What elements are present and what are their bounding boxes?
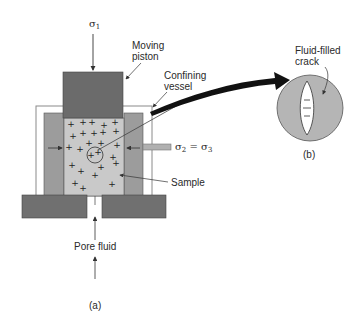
svg-text:+: +: [65, 142, 73, 152]
svg-text:+: +: [99, 127, 107, 137]
fluid-filled-crack-label: Fluid-filled crack: [295, 45, 341, 67]
moving-piston-label: Moving piston: [132, 40, 164, 62]
svg-text:+: +: [91, 170, 99, 180]
svg-text:+: +: [67, 119, 75, 129]
sigma3-subscript: 3: [208, 146, 212, 154]
confining-vessel-label: Confining vessel: [164, 70, 206, 92]
svg-text:+: +: [112, 126, 120, 136]
leader-confining-vessel: [153, 92, 167, 107]
svg-text:+: +: [108, 179, 116, 189]
equals-sign: =: [186, 141, 201, 152]
svg-text:+: +: [90, 128, 98, 138]
svg-text:+: +: [112, 158, 120, 168]
vessel-wall-right: [124, 113, 143, 196]
pore-fluid-label: Pore fluid: [74, 241, 116, 252]
confining-pipe: [143, 144, 171, 150]
sample-label: Sample: [171, 177, 205, 188]
moving-piston-label-line1: Moving: [132, 40, 164, 51]
panel-a-caption: (a): [89, 300, 101, 311]
base-block-right: [102, 195, 166, 218]
svg-text:+: +: [79, 183, 87, 193]
svg-text:+: +: [71, 178, 79, 188]
crack-label-line1: Fluid-filled: [295, 45, 341, 56]
moving-piston: [63, 72, 123, 118]
sigma3-symbol: σ: [201, 141, 208, 152]
crack-label-line2: crack: [295, 56, 341, 67]
vessel-wall-left: [44, 113, 64, 196]
sigma2-sigma3-label: σ2 = σ3: [175, 141, 212, 156]
base-block-left: [22, 195, 87, 218]
sigma-symbol: σ: [89, 18, 96, 29]
sigma2-symbol: σ: [175, 141, 182, 152]
svg-text:+: +: [76, 144, 84, 154]
svg-text:+: +: [79, 117, 87, 127]
svg-text:+: +: [79, 128, 87, 138]
sigma-subscript: 1: [96, 23, 100, 31]
svg-text:+: +: [77, 166, 85, 176]
svg-text:+: +: [68, 160, 76, 170]
sigma1-label: σ1: [89, 18, 100, 33]
confining-vessel-label-line2: vessel: [164, 81, 206, 92]
svg-text:+: +: [85, 138, 93, 148]
svg-text:+: +: [69, 131, 77, 141]
moving-piston-label-line2: piston: [132, 51, 164, 62]
svg-text:+: +: [88, 117, 96, 127]
confining-vessel-label-line1: Confining: [164, 70, 206, 81]
leader-moving-piston: [126, 63, 141, 79]
svg-text:+: +: [113, 140, 121, 150]
panel-b-caption: (b): [303, 149, 315, 160]
